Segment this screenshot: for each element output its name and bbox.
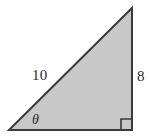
triangle-canvas [0,0,149,137]
theta-angle-label: θ [32,113,39,127]
hypotenuse-length-label: 10 [32,68,47,83]
right-triangle-shape [9,8,132,130]
triangle-figure: 10 8 θ [0,0,149,137]
opposite-leg-length-label: 8 [137,69,145,84]
